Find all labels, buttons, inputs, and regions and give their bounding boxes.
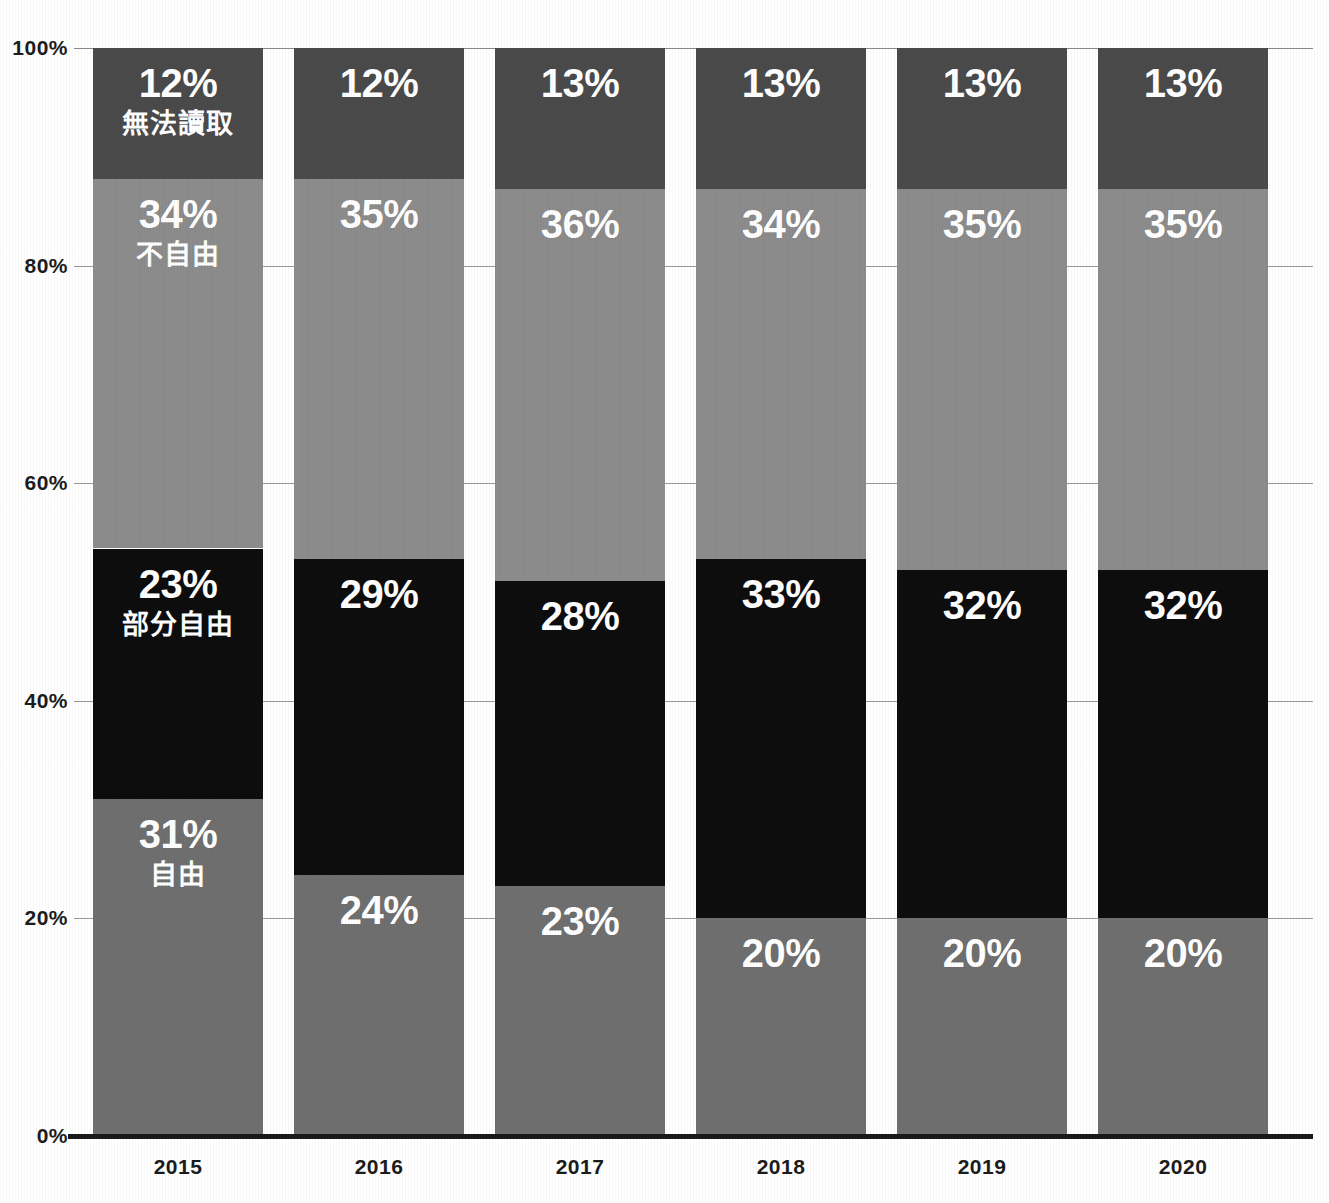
segment-value-label: 31% — [139, 813, 218, 855]
segment-value-label: 35% — [1144, 203, 1223, 245]
bar-segment-not-free[interactable]: 34% — [696, 189, 866, 559]
bar-segment-not-readable[interactable]: 12%無法讀取 — [93, 48, 263, 179]
segment-label-group: 13% — [1144, 48, 1223, 104]
bar-segment-not-free[interactable]: 35% — [294, 179, 464, 560]
bar-segment-partly-free[interactable]: 32% — [897, 570, 1067, 918]
bars-layer: 31%自由23%部分自由34%不自由12%無法讀取24%29%35%12%23%… — [74, 48, 1313, 1136]
segment-label-group: 20% — [943, 918, 1022, 974]
segment-label-group: 20% — [742, 918, 821, 974]
segment-label-group: 32% — [943, 570, 1022, 626]
segment-value-label: 20% — [742, 932, 821, 974]
x-category-label: 2019 — [897, 1155, 1067, 1179]
segment-label-group: 29% — [340, 559, 419, 615]
bar-segment-not-free[interactable]: 36% — [495, 189, 665, 581]
segment-label-group: 35% — [340, 179, 419, 235]
segment-value-label: 36% — [541, 203, 620, 245]
x-category-label: 2018 — [696, 1155, 866, 1179]
segment-label-group: 36% — [541, 189, 620, 245]
bar-segment-not-free[interactable]: 34%不自由 — [93, 179, 263, 549]
bar-segment-free[interactable]: 24% — [294, 875, 464, 1136]
segment-value-label: 23% — [541, 900, 620, 942]
segment-value-label: 13% — [943, 62, 1022, 104]
bar-column[interactable]: 24%29%35%12% — [294, 48, 464, 1136]
bar-segment-free[interactable]: 23% — [495, 886, 665, 1136]
x-axis-baseline — [68, 1134, 1313, 1139]
y-tick-label: 80% — [2, 254, 68, 278]
bar-segment-not-free[interactable]: 35% — [897, 189, 1067, 570]
plot-area: 31%自由23%部分自由34%不自由12%無法讀取24%29%35%12%23%… — [74, 48, 1313, 1136]
bar-segment-partly-free[interactable]: 29% — [294, 559, 464, 875]
segment-label-group: 20% — [1144, 918, 1223, 974]
segment-series-name: 自由 — [139, 861, 218, 889]
segment-label-group: 23%部分自由 — [122, 549, 234, 639]
segment-series-name: 無法讀取 — [122, 110, 234, 138]
segment-value-label: 29% — [340, 573, 419, 615]
segment-value-label: 20% — [943, 932, 1022, 974]
bar-segment-partly-free[interactable]: 33% — [696, 559, 866, 918]
segment-value-label: 35% — [943, 203, 1022, 245]
segment-label-group: 32% — [1144, 570, 1223, 626]
bar-column[interactable]: 20%32%35%13% — [897, 48, 1067, 1136]
x-category-label: 2017 — [495, 1155, 665, 1179]
segment-value-label: 33% — [742, 573, 821, 615]
segment-series-name: 部分自由 — [122, 611, 234, 639]
segment-label-group: 23% — [541, 886, 620, 942]
bar-segment-not-free[interactable]: 35% — [1098, 189, 1268, 570]
bar-segment-not-readable[interactable]: 13% — [495, 48, 665, 189]
y-axis-tick-labels: 100%80%60%40%20%0% — [0, 48, 68, 1136]
segment-label-group: 28% — [541, 581, 620, 637]
x-category-label: 2015 — [93, 1155, 263, 1179]
bar-segment-free[interactable]: 20% — [1098, 918, 1268, 1136]
segment-value-label: 13% — [742, 62, 821, 104]
bar-segment-partly-free[interactable]: 28% — [495, 581, 665, 886]
segment-value-label: 28% — [541, 595, 620, 637]
segment-value-label: 34% — [742, 203, 821, 245]
bar-segment-partly-free[interactable]: 32% — [1098, 570, 1268, 918]
segment-value-label: 34% — [136, 193, 220, 235]
bar-segment-free[interactable]: 20% — [696, 918, 866, 1136]
y-tick-label: 60% — [2, 471, 68, 495]
segment-label-group: 12% — [340, 48, 419, 104]
segment-label-group: 13% — [541, 48, 620, 104]
segment-value-label: 35% — [340, 193, 419, 235]
y-tick-label: 0% — [2, 1124, 68, 1148]
bar-segment-free[interactable]: 20% — [897, 918, 1067, 1136]
y-tick-label: 100% — [2, 36, 68, 60]
segment-label-group: 35% — [1144, 189, 1223, 245]
bar-column[interactable]: 20%33%34%13% — [696, 48, 866, 1136]
segment-label-group: 13% — [742, 48, 821, 104]
x-category-label: 2020 — [1098, 1155, 1268, 1179]
bar-segment-partly-free[interactable]: 23%部分自由 — [93, 549, 263, 799]
segment-value-label: 12% — [122, 62, 234, 104]
bar-segment-not-readable[interactable]: 13% — [696, 48, 866, 189]
segment-value-label: 24% — [340, 889, 419, 931]
segment-label-group: 33% — [742, 559, 821, 615]
y-tick-label: 40% — [2, 689, 68, 713]
segment-value-label: 23% — [122, 563, 234, 605]
bar-column[interactable]: 20%32%35%13% — [1098, 48, 1268, 1136]
segment-value-label: 12% — [340, 62, 419, 104]
segment-label-group: 12%無法讀取 — [122, 48, 234, 138]
segment-label-group: 35% — [943, 189, 1022, 245]
segment-value-label: 13% — [541, 62, 620, 104]
segment-label-group: 24% — [340, 875, 419, 931]
bar-segment-not-readable[interactable]: 13% — [1098, 48, 1268, 189]
segment-label-group: 34% — [742, 189, 821, 245]
segment-label-group: 13% — [943, 48, 1022, 104]
x-category-label: 2016 — [294, 1155, 464, 1179]
segment-label-group: 31%自由 — [139, 799, 218, 889]
bar-column[interactable]: 23%28%36%13% — [495, 48, 665, 1136]
bar-column[interactable]: 31%自由23%部分自由34%不自由12%無法讀取 — [93, 48, 263, 1136]
bar-segment-not-readable[interactable]: 13% — [897, 48, 1067, 189]
segment-value-label: 13% — [1144, 62, 1223, 104]
segment-value-label: 20% — [1144, 932, 1223, 974]
y-tick-label: 20% — [2, 906, 68, 930]
x-axis-category-labels: 201520162017201820192020 — [74, 1155, 1313, 1195]
segment-value-label: 32% — [1144, 584, 1223, 626]
bar-segment-not-readable[interactable]: 12% — [294, 48, 464, 179]
bar-segment-free[interactable]: 31%自由 — [93, 799, 263, 1136]
segment-value-label: 32% — [943, 584, 1022, 626]
stacked-bar-chart: 100%80%60%40%20%0% 31%自由23%部分自由34%不自由12%… — [0, 0, 1329, 1203]
segment-series-name: 不自由 — [136, 241, 220, 269]
segment-label-group: 34%不自由 — [136, 179, 220, 269]
